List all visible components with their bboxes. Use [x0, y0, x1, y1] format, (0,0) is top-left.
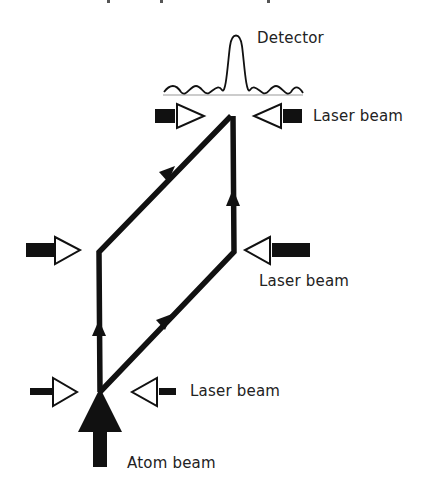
right-path [100, 116, 234, 392]
atom-beam-label: Atom beam [127, 454, 216, 472]
laser-middle-label: Laser beam [259, 272, 349, 290]
laser-top-label: Laser beam [313, 107, 403, 125]
laser-beams [26, 104, 310, 406]
cropped-text-fragment [107, 0, 270, 3]
laser-bottom-right-arrow-icon [132, 378, 176, 406]
arrowhead-left-vertical-icon [92, 320, 106, 336]
laser-middle-left-arrow-icon [26, 237, 80, 264]
laser-bottom-label: Laser beam [190, 382, 280, 400]
laser-top-right-arrow-icon [254, 104, 302, 128]
path-direction-arrows [92, 166, 240, 336]
laser-top-left-arrow-icon [155, 104, 204, 128]
laser-bottom-left-arrow-icon [30, 378, 77, 406]
atom-paths [99, 116, 234, 392]
arrowhead-right-vertical-icon [226, 189, 240, 206]
atom-beam-arrow-icon [78, 388, 122, 467]
atom-interferometer-diagram [0, 0, 436, 497]
detector-label: Detector [257, 29, 324, 47]
laser-middle-right-arrow-icon [245, 237, 310, 264]
left-path [99, 116, 231, 392]
